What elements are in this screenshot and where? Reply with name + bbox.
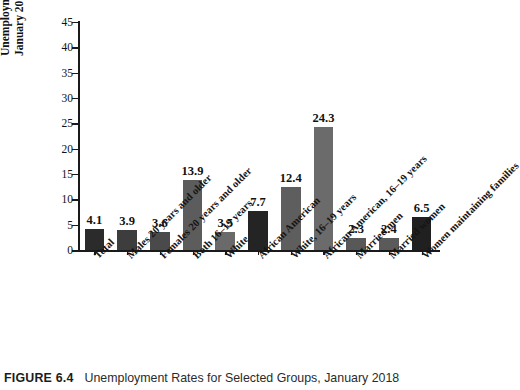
bar-value-label: 3.9 xyxy=(119,214,135,229)
bar-value-label: 12.4 xyxy=(280,171,302,186)
bar-value-label: 4.1 xyxy=(87,213,103,228)
bar-value-label: 24.3 xyxy=(313,111,335,126)
y-axis-tick-label: 35 xyxy=(62,67,74,79)
figure-caption-number: FIGURE 6.4 xyxy=(4,371,73,385)
y-axis-tick-label: 0 xyxy=(67,244,73,256)
figure-caption: FIGURE 6.4Unemployment Rates for Selecte… xyxy=(4,371,445,385)
y-axis-tick-label: 5 xyxy=(67,219,73,231)
y-axis-tick-label: 40 xyxy=(62,41,74,53)
y-axis-title-line-1: Unemployment rates, xyxy=(0,0,12,56)
y-axis-tick-label: 20 xyxy=(62,143,74,155)
plot-area: 0510152025303540454.13.93.613.93.57.712.… xyxy=(78,22,438,250)
y-axis-tick-label: 45 xyxy=(62,16,74,28)
figure-caption-text: Unemployment Rates for Selected Groups, … xyxy=(84,371,399,385)
y-axis-title-line-2: January 2018 (in percent) xyxy=(12,0,26,56)
y-axis-tick-label: 10 xyxy=(62,193,74,205)
y-axis-tick-label: 25 xyxy=(62,117,74,129)
y-axis-title: Unemployment rates, January 2018 (in per… xyxy=(0,0,27,56)
y-axis-tick-label: 30 xyxy=(62,92,74,104)
y-axis-tick-label: 15 xyxy=(62,168,74,180)
